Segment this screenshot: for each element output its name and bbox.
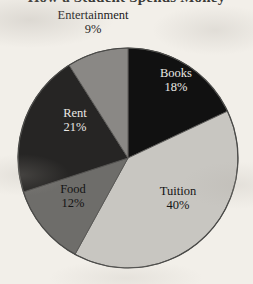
slice-label-rent: Rent 21% — [44, 106, 106, 134]
slice-label-entertainment-value: 9% — [18, 22, 168, 36]
slice-label-books: Books 18% — [140, 66, 212, 94]
pie-chart-svg — [0, 0, 253, 284]
slice-label-tuition-name: Tuition — [160, 184, 196, 198]
slice-label-food-name: Food — [60, 182, 86, 196]
slice-label-books-name: Books — [160, 66, 192, 80]
slice-label-tuition-value: 40% — [140, 198, 216, 212]
slice-label-entertainment-name: Entertainment — [58, 8, 129, 22]
slice-label-tuition: Tuition 40% — [140, 184, 216, 212]
slice-label-rent-value: 21% — [44, 120, 106, 134]
slice-label-food: Food 12% — [42, 182, 104, 210]
slice-label-entertainment: Entertainment 9% — [18, 8, 168, 36]
slice-label-books-value: 18% — [140, 80, 212, 94]
clipped-chart-title: How a Student Spends Money — [0, 0, 253, 9]
slice-label-rent-name: Rent — [63, 106, 87, 120]
chart-title-text: How a Student Spends Money — [0, 0, 253, 6]
slice-label-food-value: 12% — [42, 196, 104, 210]
scanned-page: How a Student Spends Money Entertainment… — [0, 0, 253, 284]
pie-chart: Entertainment 9% Books 18% Tuition 40% F… — [0, 0, 253, 284]
